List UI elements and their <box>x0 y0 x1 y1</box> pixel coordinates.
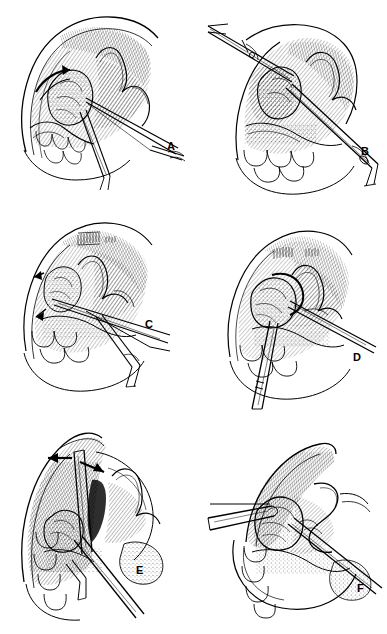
panel-b-artwork <box>208 24 378 194</box>
panel-e <box>0 422 193 633</box>
panel-label-c: C <box>145 319 153 330</box>
panel-d <box>194 211 387 422</box>
panel-label-b: B <box>361 146 369 157</box>
panel-c-artwork <box>24 223 170 391</box>
panel-label-a: A <box>167 141 175 152</box>
panel-c <box>0 211 193 422</box>
panel-a <box>0 0 193 211</box>
panel-b <box>194 0 387 211</box>
panel-label-e: E <box>136 565 143 576</box>
figure-plate: A <box>0 0 387 634</box>
panel-label-d: D <box>353 352 361 363</box>
panel-label-f: F <box>357 583 364 594</box>
panel-f <box>194 422 387 633</box>
panel-e-artwork <box>20 432 163 620</box>
panel-f-artwork <box>208 437 382 618</box>
panel-a-artwork <box>22 17 185 190</box>
panel-d-artwork <box>228 231 376 409</box>
